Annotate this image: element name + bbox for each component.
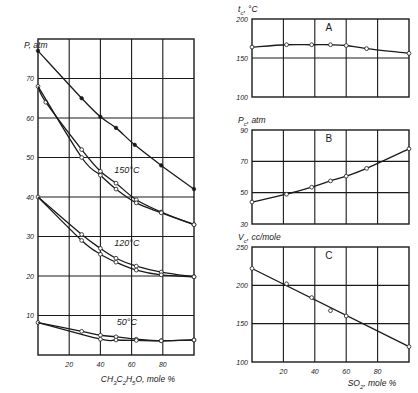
data-point-marker [407, 147, 411, 151]
data-point-marker [329, 43, 333, 47]
y-tick-label: 90 [240, 127, 248, 134]
data-point-marker [80, 239, 84, 243]
panel-c-critical-volume: 10015020025020406080Vc, cc/moleSO2, mole… [235, 232, 411, 390]
data-point-marker [99, 115, 103, 119]
y-tick-label: 10 [26, 312, 34, 319]
main-pressure-chart: 1020304050607020406080P, atmCH3C2H5O, mo… [24, 39, 196, 386]
chart-canvas: 1020304050607020406080P, atmCH3C2H5O, mo… [0, 0, 418, 393]
data-point-marker [250, 45, 254, 49]
x-tick-label: 40 [311, 368, 319, 375]
y-tick-label: 60 [26, 115, 34, 122]
panel-a-critical-temperature: 100150200tc, °CA [235, 4, 411, 101]
isotherm-label: 50°C [117, 317, 138, 327]
data-point-marker [365, 166, 369, 170]
y-axis-label: Pc, atm [238, 115, 266, 127]
y-tick-label: 100 [236, 94, 248, 101]
x-axis-label: SO2, mole % [348, 378, 397, 390]
isotherm-label: 150°C [114, 165, 140, 175]
data-point-marker [285, 282, 289, 286]
panel-label: A [326, 22, 333, 33]
data-point-marker [159, 339, 163, 343]
series-line [252, 149, 409, 202]
data-point-marker [134, 201, 138, 205]
panel-label: C [325, 250, 332, 261]
y-axis-label: tc, °C [238, 4, 258, 16]
x-tick-label: 80 [374, 368, 382, 375]
y-tick-label: 30 [26, 233, 34, 240]
data-point-marker [159, 164, 163, 168]
data-point-marker [192, 223, 196, 227]
data-point-marker [80, 329, 84, 333]
x-tick-label: 20 [64, 361, 73, 368]
data-point-marker [134, 264, 138, 268]
y-tick-label: 150 [236, 55, 248, 62]
data-point-marker [344, 44, 348, 48]
grid-lines [252, 130, 409, 224]
x-tick-label: 40 [97, 361, 105, 368]
y-tick-label: 150 [236, 320, 248, 327]
data-point-marker [80, 233, 84, 237]
y-tick-label: 200 [235, 282, 248, 289]
y-tick-label: 70 [26, 75, 34, 82]
data-point-marker [285, 43, 289, 47]
x-tick-label: 60 [128, 361, 136, 368]
series-line [252, 268, 409, 346]
panel-b-critical-pressure: 30507090Pc, atmB [238, 115, 411, 228]
data-point-marker [134, 338, 138, 342]
data-point-marker [99, 246, 103, 250]
data-point-marker [133, 143, 137, 147]
data-point-marker [329, 309, 333, 313]
series-line [38, 86, 194, 224]
data-point-marker [310, 296, 314, 300]
plot-frame [252, 247, 409, 362]
data-point-marker [159, 273, 163, 277]
data-point-marker [192, 187, 196, 191]
data-point-marker [159, 211, 163, 215]
panel-label: B [326, 133, 333, 144]
data-point-marker [407, 345, 411, 349]
data-point-marker [99, 252, 103, 256]
grid-lines [252, 247, 409, 362]
y-tick-label: 50 [26, 154, 34, 161]
y-axis-label: Vc, cc/mole [238, 232, 281, 244]
isotherm-label: 120°C [114, 238, 140, 248]
y-tick-label: 50 [240, 189, 248, 196]
data-series [38, 86, 196, 226]
y-tick-label: 40 [26, 194, 34, 201]
y-tick-label: 70 [240, 158, 248, 165]
x-tick-label: 60 [342, 368, 350, 375]
data-point-marker [344, 174, 348, 178]
data-point-marker [310, 185, 314, 189]
y-tick-label: 200 [235, 16, 248, 23]
data-point-marker [80, 156, 84, 160]
x-tick-label: 20 [279, 368, 288, 375]
y-tick-label: 30 [240, 221, 248, 228]
data-point-marker [365, 47, 369, 51]
data-point-marker [134, 268, 138, 272]
data-series [250, 267, 411, 349]
data-point-marker [114, 126, 118, 130]
data-point-marker [99, 169, 103, 173]
data-point-marker [114, 260, 118, 264]
x-axis-label: CH3C2H5O, mole % [101, 374, 176, 386]
y-tick-label: 20 [25, 273, 34, 280]
data-point-marker [310, 43, 314, 47]
data-point-marker [36, 49, 40, 53]
data-point-marker [114, 256, 118, 260]
data-point-marker [114, 187, 118, 191]
y-tick-label: 250 [235, 244, 248, 251]
data-point-marker [99, 333, 103, 337]
figure: 1020304050607020406080P, atmCH3C2H5O, mo… [0, 0, 418, 393]
y-axis-label: P, atm [24, 40, 47, 50]
data-series [36, 85, 196, 227]
data-point-marker [285, 192, 289, 196]
data-series [250, 147, 411, 204]
data-point-marker [114, 181, 118, 185]
data-point-marker [99, 173, 103, 177]
y-tick-label: 100 [236, 359, 248, 366]
data-point-marker [80, 148, 84, 152]
data-point-marker [344, 314, 348, 318]
data-point-marker [80, 96, 84, 100]
series-line [38, 86, 194, 224]
data-point-marker [407, 51, 411, 55]
